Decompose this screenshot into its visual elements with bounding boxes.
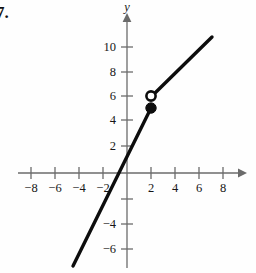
plot-series-group <box>73 37 212 266</box>
line-segment-right-branch <box>155 37 212 93</box>
x-tick-label-4: 4 <box>172 181 179 195</box>
x-axis-tick-labels: −8 −6 −4 −2 2 4 6 8 <box>24 181 226 195</box>
closed-circle-marker <box>146 103 156 113</box>
y-tick-label-4: 4 <box>110 113 117 127</box>
y-axis-label: y <box>122 0 130 14</box>
y-tick-label--4: −4 <box>103 217 117 231</box>
open-circle-marker <box>146 91 155 100</box>
y-tick-label-6: 6 <box>110 89 116 103</box>
x-tick-label--6: −6 <box>48 181 61 195</box>
y-tick-label--6: −6 <box>103 242 116 256</box>
x-tick-label--4: −4 <box>72 181 86 195</box>
y-tick-label-2: 2 <box>110 139 116 153</box>
x-tick-label-6: 6 <box>196 181 202 195</box>
y-axis-tick-labels: 10 8 6 4 2 −4 −6 <box>103 40 117 256</box>
endpoint-markers-group <box>146 91 156 113</box>
axes-group <box>18 13 247 268</box>
x-tick-label-2: 2 <box>148 181 154 195</box>
x-axis-arrowhead-icon <box>238 169 247 178</box>
x-tick-label--8: −8 <box>24 181 37 195</box>
y-axis-arrowhead-icon <box>123 13 132 22</box>
graph-figure: −8 −6 −4 −2 2 4 6 8 10 8 6 4 2 −4 −6 y <box>0 0 256 273</box>
x-tick-label-8: 8 <box>220 181 226 195</box>
y-tick-label-10: 10 <box>104 40 117 54</box>
y-tick-label-8: 8 <box>110 65 116 79</box>
